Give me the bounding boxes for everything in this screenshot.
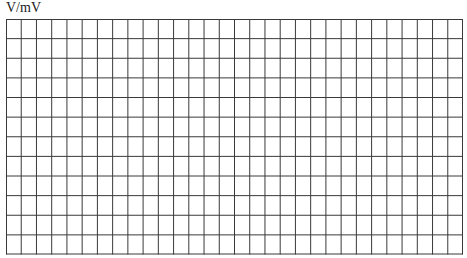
y-axis-label: V/mV [6,0,41,16]
grid-lines [6,19,463,255]
graph-paper-grid [6,19,463,255]
